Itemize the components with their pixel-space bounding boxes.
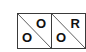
cell-bottom-left-letter: O: [56, 31, 66, 44]
diagonal-letter-grid: O O R O: [17, 13, 85, 49]
grid-cell-2: R O: [51, 13, 86, 49]
grid-cell-1: O O: [17, 13, 52, 49]
cell-top-right-letter: R: [71, 17, 80, 30]
cell-top-right-letter: O: [36, 17, 46, 30]
cell-bottom-left-letter: O: [22, 31, 32, 44]
